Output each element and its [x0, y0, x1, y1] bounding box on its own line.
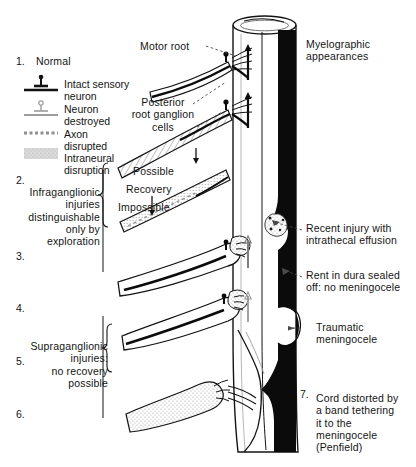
label-infraganglionic-injuries: Infraganglionic injuries distinguishable…: [4, 186, 100, 247]
label-normal: Normal: [36, 55, 71, 67]
swatch-neuron-destroyed: [24, 101, 58, 115]
item-number-4: 4.: [16, 302, 25, 314]
item-number-7: 7.: [300, 388, 309, 400]
item-number-1: 1.: [16, 55, 25, 67]
label-motor-root: Motor root: [140, 40, 189, 52]
item-number-2: 2.: [16, 174, 25, 186]
item-number-3: 3.: [16, 250, 25, 262]
label-possible: Possible: [133, 165, 174, 177]
legend-label-intraneural-disruption: Intraneural disruption: [64, 152, 114, 177]
label-traumatic-meningocele: Traumatic meningocele: [316, 321, 377, 346]
legend-label-axon-disrupted: Axon disrupted: [64, 128, 107, 153]
swatch-intact-sensory-neuron: [24, 75, 58, 90]
label-supraganglionic-injuries: Supraganglionic injuries: no recovery po…: [4, 340, 108, 389]
label-cord-distorted: Cord distorted by a band tethering it to…: [316, 392, 399, 453]
swatch-intraneural-disruption: [24, 148, 58, 159]
legend-label-neuron-destroyed: Neuron destroyed: [64, 103, 110, 128]
label-recovery: Recovery: [126, 183, 172, 195]
item-number-6: 6.: [16, 408, 25, 420]
label-rent-in-dura: Rent in dura sealed off: no meningocele: [306, 269, 400, 294]
label-recent-injury: Recent injury with intrathecal effusion: [306, 222, 397, 247]
label-impossible: Impossible: [118, 201, 170, 213]
label-myelographic-appearances: Myelographic appearances: [306, 38, 370, 63]
label-posterior-root-ganglion-cells: Posterior root ganglion cells: [111, 96, 215, 133]
myelography-figure: 1. 2. 3. 4. 5. 6. 7. Normal Intact senso…: [0, 0, 416, 467]
